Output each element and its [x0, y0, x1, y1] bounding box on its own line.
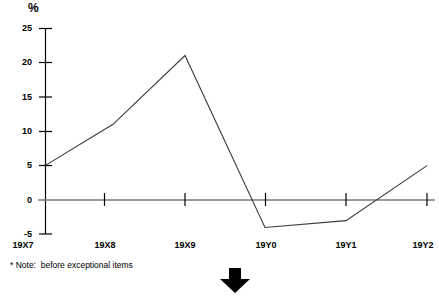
y-axis-label-20: 20 [6, 57, 32, 67]
y-axis-label-0: 0 [6, 195, 32, 205]
data-series-line [45, 56, 427, 228]
y-axis-label-25: 25 [6, 23, 32, 33]
y-axis-label-minus5: -5 [6, 229, 32, 239]
down-arrow-icon [218, 268, 252, 294]
chart-container: % 25 20 15 10 5 0 -5 19X7 19X8 19X9 19Y0… [0, 0, 439, 297]
chart-footnote: * Note: before exceptional items [10, 260, 133, 271]
y-axis-label-10: 10 [6, 126, 32, 136]
x-axis-label-19Y1: 19Y1 [323, 240, 369, 250]
x-axis-label-19X8: 19X8 [82, 240, 128, 250]
y-axis-label-15: 15 [6, 92, 32, 102]
x-axis-label-19X7: 19X7 [0, 240, 46, 250]
x-axis-label-19X9: 19X9 [162, 240, 208, 250]
chart-plot-area [0, 0, 439, 297]
x-axis-label-19Y0: 19Y0 [243, 240, 289, 250]
down-arrow-glyph [218, 268, 252, 294]
x-axis-label-19Y2: 19Y2 [400, 240, 439, 250]
y-axis-label-5: 5 [6, 160, 32, 170]
